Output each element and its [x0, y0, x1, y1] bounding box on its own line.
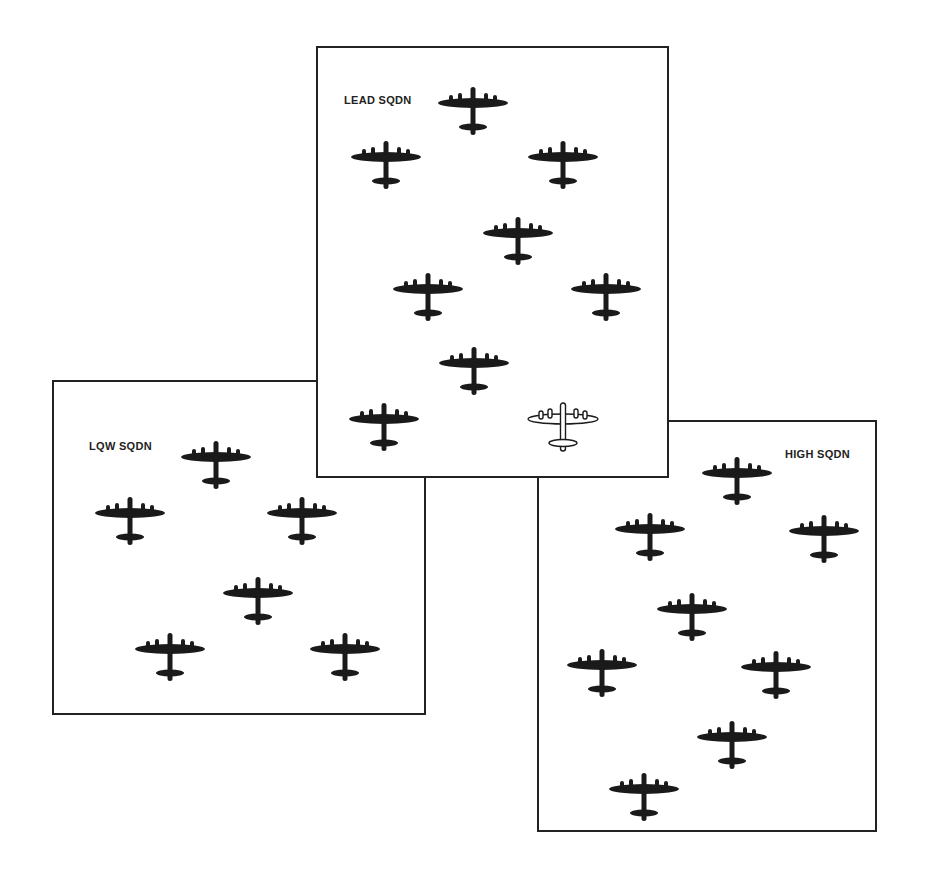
low-squadron-aircraft-icon: [94, 496, 166, 548]
lead-squadron-aircraft-icon: [348, 402, 420, 454]
high-squadron-aircraft-icon: [608, 772, 680, 824]
high-squadron-aircraft-icon: [788, 514, 860, 566]
high-squadron-aircraft-icon: [696, 720, 768, 772]
low-squadron-aircraft-icon: [134, 632, 206, 684]
low-squadron-aircraft-icon: [222, 576, 294, 628]
lead-squadron-aircraft-icon: [527, 140, 599, 192]
lead-squadron-aircraft-icon: [437, 86, 509, 138]
low-squadron-aircraft-icon: [266, 496, 338, 548]
lead-squadron-aircraft-icon: [392, 272, 464, 324]
low-squadron-label: LQW SQDN: [89, 440, 152, 452]
high-squadron-aircraft-icon: [566, 648, 638, 700]
high-squadron-aircraft-icon: [656, 592, 728, 644]
lead-squadron-aircraft-icon: [482, 216, 554, 268]
high-squadron-aircraft-icon: [740, 650, 812, 702]
lead-squadron-aircraft-icon: [438, 346, 510, 398]
lead-squadron-label: LEAD SQDN: [344, 94, 411, 106]
high-squadron-label: HIGH SQDN: [785, 448, 850, 460]
high-squadron-aircraft-icon: [701, 456, 773, 508]
low-squadron-aircraft-icon: [180, 440, 252, 492]
lead-squadron-aircraft-icon: [527, 402, 599, 454]
lead-squadron-aircraft-icon: [350, 140, 422, 192]
high-squadron-aircraft-icon: [614, 512, 686, 564]
lead-squadron-aircraft-icon: [570, 272, 642, 324]
low-squadron-aircraft-icon: [309, 632, 381, 684]
